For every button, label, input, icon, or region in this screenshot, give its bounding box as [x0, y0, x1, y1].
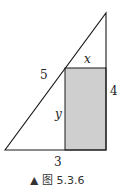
label-base: 3 — [54, 155, 62, 169]
label-y: y — [54, 107, 62, 121]
label-hypotenuse: 5 — [40, 68, 48, 82]
label-height: 4 — [110, 84, 118, 98]
right-triangle-diagram: 5 4 3 x y ▲ 图 5.3.6 — [0, 0, 121, 185]
figure-caption: ▲ 图 5.3.6 — [30, 174, 84, 185]
inscribed-rectangle — [65, 68, 106, 150]
label-x: x — [84, 52, 91, 66]
